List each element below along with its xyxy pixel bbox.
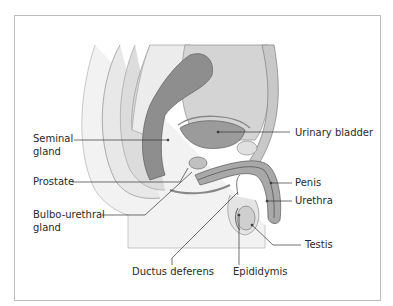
urinary-bladder xyxy=(180,121,245,149)
prostate xyxy=(189,157,207,169)
pubic-symphysis xyxy=(237,141,257,155)
label-seminal-gland-line1: Seminal xyxy=(33,133,73,145)
label-bulbo-urethral-gland-line2: gland xyxy=(33,222,61,234)
label-ductus-deferens: Ductus deferens xyxy=(132,266,214,278)
label-seminal-gland-line2: gland xyxy=(33,146,61,158)
label-prostate: Prostate xyxy=(33,176,74,188)
label-urethra: Urethra xyxy=(295,195,333,207)
testis xyxy=(237,206,255,230)
label-testis: Testis xyxy=(305,239,333,251)
ductus-deferens xyxy=(237,175,240,195)
label-urinary-bladder: Urinary bladder xyxy=(295,127,373,139)
label-epididymis: Epididymis xyxy=(233,266,288,278)
label-bulbo-urethral-gland-line1: Bulbo-urethral xyxy=(33,209,105,221)
label-penis: Penis xyxy=(295,177,321,189)
